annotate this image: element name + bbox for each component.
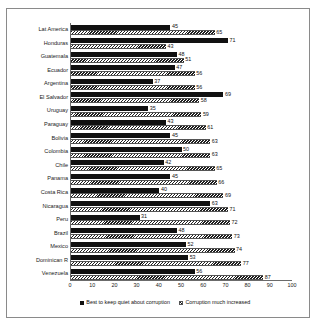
bar (71, 220, 230, 225)
bar (71, 147, 182, 152)
x-tick-label: 10 (89, 283, 95, 288)
bar-group: 50 (71, 147, 292, 152)
category-label: Paraguay (9, 118, 71, 132)
bar (71, 275, 263, 280)
bar-group: 61 (71, 125, 292, 130)
bar-value-label: 50 (183, 147, 189, 152)
bar-value-label: 56 (196, 71, 202, 76)
bar-row: Venezuela5687 (71, 267, 292, 281)
bar-value-label: 51 (185, 57, 191, 62)
bar-value-label: 40 (161, 187, 167, 192)
bar (71, 30, 215, 35)
legend-label: Corruption much increased (185, 300, 250, 305)
category-label: Panama (9, 172, 71, 186)
bar-row: Lat America4565 (71, 23, 292, 37)
bar-value-label: 56 (196, 269, 202, 274)
bar-group: 40 (71, 188, 292, 193)
bar-group: 77 (71, 261, 292, 266)
bar-group: 56 (71, 85, 292, 90)
bar-group: 35 (71, 106, 292, 111)
bar-value-label: 37 (154, 79, 160, 84)
bar-group: 65 (71, 166, 292, 171)
bar (71, 112, 201, 117)
bar (71, 125, 206, 130)
bar-value-label: 45 (172, 174, 178, 179)
category-label: Brazil (9, 227, 71, 241)
bar-value-label: 35 (150, 106, 156, 111)
bar (71, 248, 235, 253)
bar-group: 59 (71, 112, 292, 117)
category-label-text: Chile (55, 163, 68, 169)
chart-legend: Best to keep quiet about corruptionCorru… (13, 300, 317, 305)
legend-item[interactable]: Corruption much increased (179, 300, 250, 305)
bar (71, 71, 195, 76)
bar-value-label: 77 (243, 261, 249, 266)
bar-value-label: 48 (179, 52, 185, 57)
x-tick-label: 0 (69, 283, 72, 288)
bar (71, 79, 153, 84)
bar-value-label: 66 (218, 180, 224, 185)
category-label-text: Peru (56, 217, 68, 223)
bar-row: Dominican R5377 (71, 254, 292, 268)
bar-group: 48 (71, 228, 292, 233)
legend-item[interactable]: Best to keep quiet about corruption (80, 300, 170, 305)
chart-frame: Lat America4565Honduras7143Guatemala4851… (6, 8, 310, 318)
category-label: Mexico (9, 240, 71, 254)
bar (71, 52, 177, 57)
bar-group: 63 (71, 201, 292, 206)
bar (71, 166, 215, 171)
bar-group: 47 (71, 65, 292, 70)
bar-value-label: 69 (225, 193, 231, 198)
category-label: Dominican R (9, 254, 71, 268)
bar-group: 31 (71, 215, 292, 220)
bar-group: 69 (71, 92, 292, 97)
bar-group: 42 (71, 160, 292, 165)
bar-value-label: 71 (229, 38, 235, 43)
bar-value-label: 43 (168, 44, 174, 49)
bar-row: Panama4566 (71, 172, 292, 186)
x-tick-label: 30 (134, 283, 140, 288)
legend-label: Best to keep quiet about corruption (86, 300, 170, 305)
bar-group: 69 (71, 193, 292, 198)
bar-group: 58 (71, 98, 292, 103)
bar-group: 53 (71, 255, 292, 260)
bar-row: Costa Rica4069 (71, 186, 292, 200)
bar-value-label: 47 (176, 65, 182, 70)
x-axis: 0102030405060708090100 (70, 283, 292, 295)
bar-group: 56 (71, 269, 292, 274)
bar-group: 45 (71, 133, 292, 138)
category-label-text: Bolivia (52, 136, 68, 142)
category-label-text: Mexico (50, 244, 68, 250)
bar (71, 160, 164, 165)
bar-value-label: 72 (232, 220, 238, 225)
bar-group: 43 (71, 120, 292, 125)
bar (71, 201, 210, 206)
x-tick-label: 90 (267, 283, 273, 288)
bar-group: 71 (71, 207, 292, 212)
category-label: Chile (9, 159, 71, 173)
x-tick-label: 60 (200, 283, 206, 288)
bar-group: 51 (71, 58, 292, 63)
bar-row: El Salvador6958 (71, 91, 292, 105)
category-label: Honduras (9, 37, 71, 51)
bar (71, 98, 199, 103)
category-label-text: Panama (47, 176, 68, 182)
bar-value-label: 45 (172, 133, 178, 138)
category-label: Bolivia (9, 132, 71, 146)
bar (71, 44, 166, 49)
bar (71, 153, 210, 158)
category-label-text: Dominican R (36, 258, 68, 264)
bar (71, 120, 166, 125)
legend-swatch-solid-icon (80, 301, 84, 305)
bar-group: 52 (71, 242, 292, 247)
bar-group: 63 (71, 153, 292, 158)
bar-group: 43 (71, 44, 292, 49)
bar (71, 85, 195, 90)
bar (71, 58, 184, 63)
bar (71, 133, 170, 138)
category-label: Argentina (9, 77, 71, 91)
bar-value-label: 65 (216, 30, 222, 35)
bar (71, 180, 217, 185)
bar-row: Argentina3756 (71, 77, 292, 91)
x-tick-label: 80 (245, 283, 251, 288)
